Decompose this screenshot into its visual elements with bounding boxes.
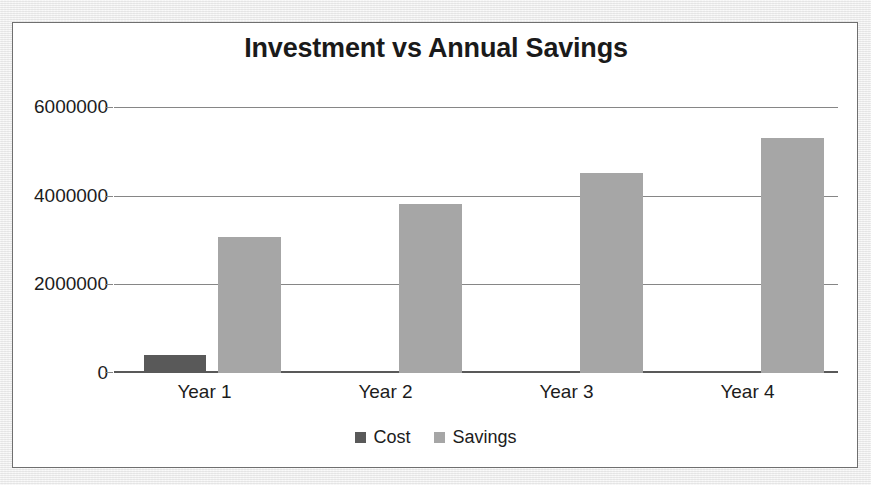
y-tick-label-6000000: 6000000	[34, 96, 108, 118]
y-tick-mark-0	[105, 372, 113, 373]
y-tick-label-0: 0	[97, 362, 108, 384]
category-group-year-1	[114, 107, 295, 373]
y-tick-label-4000000: 4000000	[34, 185, 108, 207]
bar-savings-year-1[interactable]	[218, 237, 281, 373]
bar-cost-year-1[interactable]	[144, 355, 206, 373]
y-axis-tick-labels: 6000000 4000000 2000000 0	[18, 107, 108, 373]
x-axis-label-year-1: Year 1	[114, 381, 295, 403]
legend-item-cost[interactable]: Cost	[355, 427, 410, 448]
x-axis-label-year-4: Year 4	[657, 381, 838, 403]
y-tick-mark-4000000	[105, 196, 113, 197]
y-tick-mark-6000000	[105, 107, 113, 108]
x-axis-label-year-2: Year 2	[295, 381, 476, 403]
legend-swatch-savings-icon	[434, 432, 445, 443]
bar-savings-year-4[interactable]	[761, 138, 824, 373]
bar-savings-year-2[interactable]	[399, 204, 462, 373]
chart-legend: Cost Savings	[13, 427, 859, 448]
category-group-year-4	[657, 107, 838, 373]
chart-frame: Investment vs Annual Savings 6000000 400…	[12, 22, 858, 468]
y-tick-mark-2000000	[105, 284, 113, 285]
x-axis-label-year-3: Year 3	[476, 381, 657, 403]
y-tick-label-2000000: 2000000	[34, 273, 108, 295]
category-group-year-3	[476, 107, 657, 373]
chart-title: Investment vs Annual Savings	[13, 33, 859, 64]
bar-savings-year-3[interactable]	[580, 173, 643, 373]
plot-area	[114, 107, 838, 373]
category-group-year-2	[295, 107, 476, 373]
legend-label-savings: Savings	[452, 427, 516, 448]
legend-item-savings[interactable]: Savings	[434, 427, 516, 448]
legend-label-cost: Cost	[373, 427, 410, 448]
legend-swatch-cost-icon	[355, 432, 366, 443]
